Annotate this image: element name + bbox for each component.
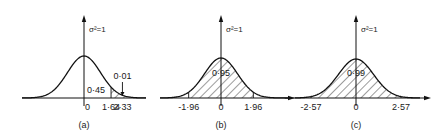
panel-c-caption: (c) [351,120,362,130]
panel-c-tick-0: 0 [353,102,358,112]
panel-c-y-axis-arrow-icon [354,15,358,22]
panel-b-tick-1-96: 1·96 [244,102,262,112]
panel-a-area-label-0-45: 0·45 [87,85,105,95]
panel-a-caption: (a) [79,120,90,130]
panel-b-caption: (b) [216,120,227,130]
panel-a-variance-label: σ²=1 [89,25,106,34]
panel-c-x-axis-arrow-icon [424,96,431,100]
panel-b-tick-neg-1-96: -1·96 [178,102,199,112]
panel-c: σ²=1 0·99 -2·57 0 2·57 (c) [292,15,431,130]
normal-distribution-figure: σ²=1 0·45 0·01 0 1·64 2·33 (a) σ²=1 0·95… [0,0,432,140]
panel-c-variance-label: σ²=1 [361,25,378,34]
panel-b-variance-label: σ²=1 [226,25,243,34]
panel-a-tick-2-33: 2·33 [113,102,131,112]
panel-c-tick-2-57: 2·57 [392,102,410,112]
panel-b: σ²=1 0·95 -1·96 0 1·96 (b) [160,15,295,130]
panel-b-y-axis-arrow-icon [219,15,223,22]
panel-a: σ²=1 0·45 0·01 0 1·64 2·33 (a) [22,15,146,130]
panel-b-area-label-0-95: 0·95 [212,68,230,78]
panel-a-tick-0: 0 [85,102,90,112]
panel-c-area-label-0-99: 0·99 [347,68,365,78]
panel-a-tail-label-0-01: 0·01 [113,71,131,81]
panel-a-y-axis-arrow-icon [82,15,86,22]
panel-b-tick-0: 0 [218,102,223,112]
panel-c-tick-neg-2-57: -2·57 [301,102,322,112]
